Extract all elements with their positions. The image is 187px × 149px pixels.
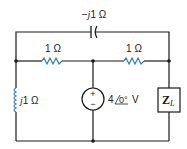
source-unit: V (132, 94, 139, 105)
node-right (167, 59, 171, 63)
node-left (14, 59, 18, 63)
top-branch (16, 32, 169, 61)
source-label: 4 0° V (108, 94, 139, 105)
capacitor-label: −j1 Ω (82, 9, 107, 20)
inductor-icon (14, 88, 16, 112)
source-plus: + (90, 89, 95, 99)
resistor-right-label: 1 Ω (126, 43, 142, 54)
source-angle: 0° (119, 95, 128, 105)
resistor-left-icon (42, 58, 62, 64)
circuit-diagram: −j1 Ω 1 Ω 1 Ω j1 Ω + − 4 0° V ZL (0, 0, 187, 149)
resistor-left-label: 1 Ω (45, 43, 61, 54)
node-bottom (91, 139, 95, 143)
inductor-label: j1 Ω (18, 95, 39, 106)
resistor-right-icon (124, 58, 144, 64)
node-center (91, 59, 95, 63)
source-magnitude: 4 (108, 94, 114, 105)
source-minus: − (90, 99, 95, 109)
